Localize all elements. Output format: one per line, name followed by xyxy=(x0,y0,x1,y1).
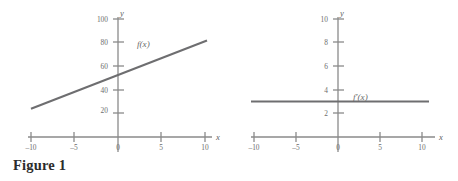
y-tick-label-100: 100 xyxy=(97,15,108,24)
x-tick-label-10: 10 xyxy=(418,143,426,152)
x-tick-label-5: 5 xyxy=(159,143,163,152)
x-tick-label-0: 0 xyxy=(336,143,340,152)
x-tick-label-5: 5 xyxy=(378,143,382,152)
x-tick-label--5: –5 xyxy=(69,143,78,152)
figure-caption: Figure 1 xyxy=(13,157,66,174)
x-axis-label: x xyxy=(215,132,220,142)
x-tick-label-10: 10 xyxy=(201,143,209,152)
chart-function-plot: –10 –5 0 5 10 20 40 60 80 100 x y f(x) xyxy=(0,0,229,160)
y-tick-label-40: 40 xyxy=(101,86,109,95)
y-axis-label: y xyxy=(339,8,344,18)
y-tick-label-80: 80 xyxy=(101,38,109,47)
x-tick-label-0: 0 xyxy=(116,143,120,152)
figure-container: –10 –5 0 5 10 20 40 60 80 100 x y f(x) xyxy=(0,0,458,181)
y-tick-label-2: 2 xyxy=(324,109,328,118)
function-curve xyxy=(31,41,207,109)
x-tick-label--10: –10 xyxy=(247,143,259,152)
x-tick-label--5: –5 xyxy=(291,143,300,152)
y-tick-label-60: 60 xyxy=(101,62,109,71)
curve-label-fprime: f′(x) xyxy=(353,92,368,102)
y-tick-label-20: 20 xyxy=(101,106,109,115)
y-axis-label: y xyxy=(119,8,124,18)
x-axis-label: x xyxy=(438,132,443,142)
y-tick-label-8: 8 xyxy=(324,38,328,47)
y-tick-label-4: 4 xyxy=(324,86,328,95)
y-tick-label-10: 10 xyxy=(321,15,329,24)
curve-label-fx: f(x) xyxy=(137,39,150,49)
x-tick-label--10: –10 xyxy=(24,143,36,152)
chart-derivative-plot: –10 –5 0 5 10 2 4 6 8 10 x y f′(x) xyxy=(229,0,458,160)
y-tick-label-6: 6 xyxy=(324,62,328,71)
